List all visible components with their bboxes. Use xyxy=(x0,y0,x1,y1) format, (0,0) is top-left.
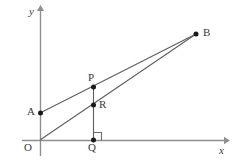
x-axis-arrowhead xyxy=(224,137,230,144)
segment-ab xyxy=(40,34,196,113)
axes-group xyxy=(22,5,230,156)
point-label-p: P xyxy=(88,72,94,83)
y-axis-label: y xyxy=(29,6,34,17)
point-label-b: B xyxy=(203,27,210,38)
point-a-dot xyxy=(38,111,43,116)
point-label-o: O xyxy=(24,142,32,153)
point-r-dot xyxy=(91,103,96,108)
y-axis-arrowhead xyxy=(37,5,44,11)
point-p-dot xyxy=(91,85,96,90)
segment-ob xyxy=(40,34,196,140)
figure-canvas xyxy=(0,0,232,168)
x-axis-label: x xyxy=(219,145,224,156)
point-label-r: R xyxy=(99,99,106,110)
geometry-figure: y x O A P R Q B xyxy=(0,0,232,168)
point-label-a: A xyxy=(27,106,35,117)
point-b-dot xyxy=(194,32,199,37)
point-label-q: Q xyxy=(88,142,96,153)
segments-group xyxy=(40,34,196,141)
